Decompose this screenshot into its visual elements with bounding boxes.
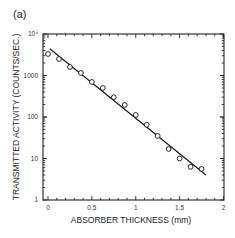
data-point [111, 95, 116, 100]
fit-line [50, 49, 206, 175]
svg-text:1: 1 [34, 196, 38, 203]
svg-text:0: 0 [46, 204, 50, 211]
data-point [68, 65, 73, 70]
svg-text:10: 10 [31, 155, 39, 162]
svg-text:0.5: 0.5 [87, 204, 96, 211]
data-point [155, 134, 160, 139]
chart: 00.511.52110100100010⁴ ABSORBER THICKNES… [0, 0, 235, 238]
svg-text:2: 2 [222, 204, 226, 211]
data-point [166, 147, 171, 152]
y-axis-title: TRANSMITTED ACTIVITY (COUNTS/SEC.) [11, 34, 21, 201]
data-point [144, 122, 149, 127]
data-points [46, 52, 204, 172]
data-point [199, 167, 204, 172]
svg-text:1000: 1000 [24, 72, 39, 79]
tick-labels: 00.511.52110100100010⁴ [24, 30, 226, 211]
data-point [177, 156, 182, 161]
svg-text:100: 100 [27, 113, 38, 120]
data-point [57, 57, 62, 62]
data-point [46, 52, 51, 57]
svg-text:1: 1 [134, 204, 138, 211]
svg-text:1.5: 1.5 [175, 204, 184, 211]
data-point [122, 103, 127, 108]
x-axis-title: ABSORBER THICKNESS (mm) [71, 215, 191, 225]
data-point [100, 86, 105, 91]
data-point [133, 113, 138, 118]
svg-text:10⁴: 10⁴ [28, 30, 38, 37]
data-point [89, 80, 94, 85]
data-point [188, 164, 193, 169]
data-point [79, 71, 84, 76]
